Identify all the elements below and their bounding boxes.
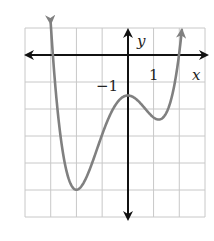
y-tick-label-minus-1: −1: [96, 77, 118, 95]
y-axis-label: y: [136, 32, 146, 50]
function-curve: [51, 23, 182, 190]
x-tick-label-1: 1: [149, 66, 159, 84]
x-axis-label: x: [192, 66, 201, 84]
function-graph: y x 1 −1: [0, 0, 214, 241]
